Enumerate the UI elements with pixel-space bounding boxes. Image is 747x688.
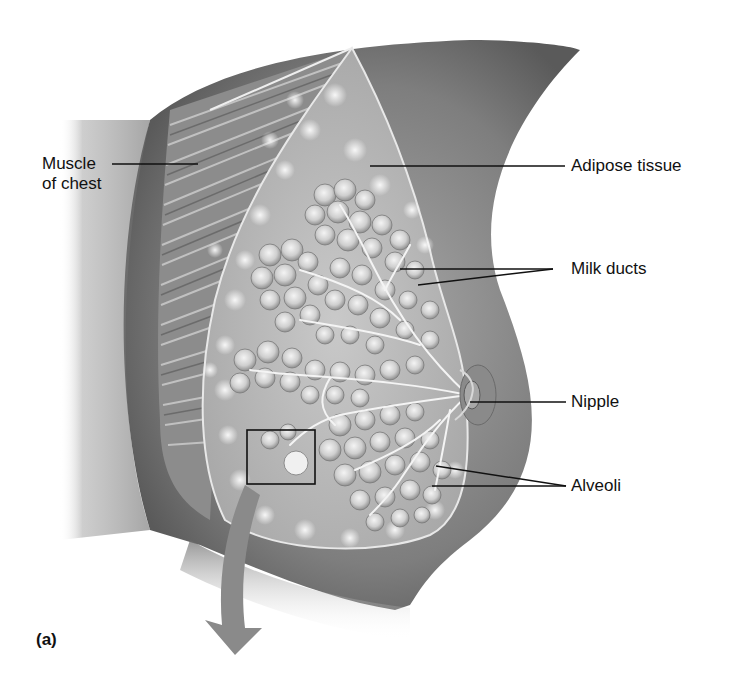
label-adipose-tissue: Adipose tissue bbox=[571, 156, 682, 176]
panel-label: (a) bbox=[36, 630, 57, 650]
label-nipple: Nipple bbox=[571, 392, 619, 412]
label-milk-ducts: Milk ducts bbox=[571, 259, 647, 279]
breast-anatomy-illustration bbox=[0, 0, 747, 688]
label-muscle-line1: Muscle bbox=[42, 154, 102, 174]
label-muscle-line2: of chest bbox=[42, 174, 102, 194]
label-alveoli: Alveoli bbox=[571, 476, 621, 496]
label-muscle-of-chest: Muscle of chest bbox=[42, 154, 102, 194]
